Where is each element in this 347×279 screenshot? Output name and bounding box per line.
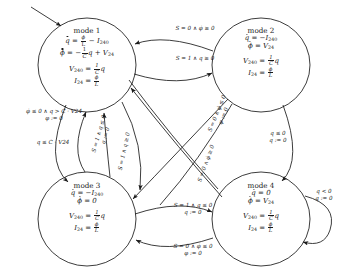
guard-t_2to1_top: S = 0 ∧ φ̇ ≥ 0 [150,25,240,32]
reset-t_self_4: q := 0 [304,195,344,202]
guard-t_1to3_left: φ̇ ≤ 0 ∧ q > C · V24 [2,108,106,115]
guard-t_4to3: S = 0 ∧ φ̇ ≤ 0 [148,243,238,250]
node-mode3 [38,172,136,266]
reset-t_1to3_left: φ := 0 [2,115,106,122]
transition-label-mode1-to-mode2: S = 1 ∧ q ≥ 0 [150,55,240,62]
arrow-initial [31,7,61,26]
reset-t_4to3: φ := 0 [148,250,238,257]
arrow-mode2-to-mode1-top [135,40,213,51]
guard-t_3to1_left: q ≤ C · V24 [22,139,84,146]
transition-label-mode3-to-mode4: S = 1 ∧ q ≤ 0 q := 0 [148,202,238,215]
guard-t_1to2: S = 1 ∧ q ≥ 0 [150,55,240,62]
transition-label-mode2-to-mode4-right: q ≤ 0 q := 0 [258,130,298,143]
node-mode1 [38,18,136,112]
transition-label-mode3-to-mode1-left: q ≤ C · V24 [22,139,84,146]
reset-t_3to4: q := 0 [148,209,238,216]
transition-label-mode2-to-mode1-top: S = 0 ∧ φ̇ ≥ 0 [150,25,240,32]
transition-label-self-loop-mode4: q < 0 q := 0 [304,188,344,201]
guard-t_self_4: q < 0 [304,188,344,195]
guard-t_3to4: S = 1 ∧ q ≤ 0 [148,202,238,209]
transition-label-mode1-to-mode3-left: φ̇ ≤ 0 ∧ q > C · V24 φ := 0 [2,108,106,121]
reset-t_2to4_right: q := 0 [258,137,298,144]
transition-label-mode4-to-mode3: S = 0 ∧ φ̇ ≤ 0 φ := 0 [148,243,238,256]
arrow-mode1-to-mode2 [134,73,212,81]
guard-t_2to4_right: q ≤ 0 [258,130,298,137]
